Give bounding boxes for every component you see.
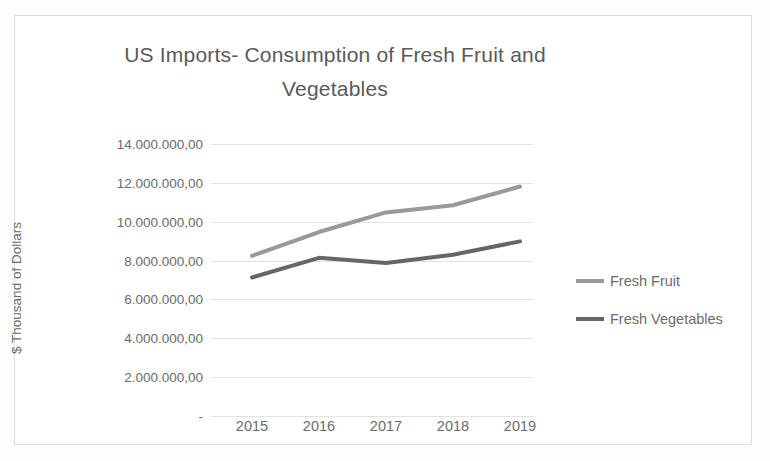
y-axis-tick-label: 12.000.000,00	[73, 175, 203, 190]
y-axis-tick-label: -	[73, 409, 203, 424]
legend-swatch-icon	[576, 317, 604, 321]
legend-entry[interactable]: Fresh Fruit	[576, 262, 756, 300]
x-axis-tick-label: 2015	[222, 418, 282, 434]
x-axis-tick-label: 2019	[490, 418, 550, 434]
x-axis-tick-labels: 20152016201720182019	[211, 418, 533, 442]
y-axis-tick-label: 4.000.000,00	[73, 331, 203, 346]
gridline	[211, 416, 533, 417]
y-axis-tick-labels: -2.000.000,004.000.000,006.000.000,008.0…	[73, 144, 203, 416]
y-axis-tick-label: 10.000.000,00	[73, 214, 203, 229]
series-line-fresh-fruit	[252, 187, 520, 256]
y-axis-tick-label: 6.000.000,00	[73, 292, 203, 307]
x-axis-tick-label: 2016	[289, 418, 349, 434]
y-axis-title: $ Thousand of Dollars	[9, 168, 24, 408]
x-axis-tick-label: 2017	[356, 418, 416, 434]
chart-title-line-2: Vegetables	[85, 72, 585, 106]
legend-label: Fresh Fruit	[610, 273, 680, 289]
plot-area	[211, 144, 533, 416]
chart-title: US Imports- Consumption of Fresh Fruit a…	[85, 38, 585, 106]
chart-page: US Imports- Consumption of Fresh Fruit a…	[0, 0, 770, 461]
y-axis-tick-label: 2.000.000,00	[73, 370, 203, 385]
x-axis-tick-label: 2018	[423, 418, 483, 434]
legend-entry[interactable]: Fresh Vegetables	[576, 300, 756, 338]
chart-legend: Fresh FruitFresh Vegetables	[576, 262, 756, 338]
chart-frame: US Imports- Consumption of Fresh Fruit a…	[14, 15, 752, 445]
series-line-fresh-vegetables	[252, 241, 520, 277]
y-axis-tick-label: 14.000.000,00	[73, 137, 203, 152]
series-lines	[211, 144, 533, 416]
legend-label: Fresh Vegetables	[610, 311, 723, 327]
y-axis-tick-label: 8.000.000,00	[73, 253, 203, 268]
chart-title-line-1: US Imports- Consumption of Fresh Fruit a…	[85, 38, 585, 72]
legend-swatch-icon	[576, 279, 604, 283]
